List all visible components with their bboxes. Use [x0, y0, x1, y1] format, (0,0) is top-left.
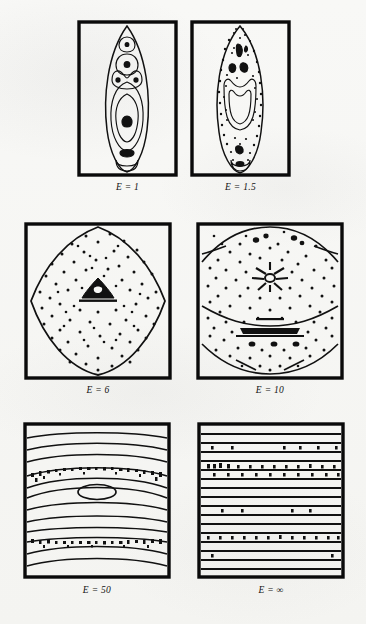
- panel-label-e-1-5: E = 1.5: [190, 182, 291, 192]
- panel-e-1-5: [190, 20, 291, 177]
- contour-figure-grid: E = 1: [0, 0, 366, 624]
- panel-label-e-6: E = 6: [24, 385, 172, 395]
- panel-e-6: [24, 222, 172, 380]
- stipple-layer: [39, 233, 160, 372]
- contour-set: [106, 26, 149, 172]
- panel-frame: [199, 424, 343, 577]
- panel-label-e-50: E = 50: [23, 585, 171, 595]
- panel-e-10: [196, 222, 344, 380]
- contour-set: [217, 26, 263, 173]
- stipple-layer: [207, 231, 336, 372]
- contour-set: [201, 434, 341, 569]
- stipple-layer: [31, 467, 162, 548]
- panel-e-1: [77, 20, 178, 177]
- panel-label-e-infinity: E = ∞: [197, 585, 345, 595]
- panel-label-e-1: E = 1: [77, 182, 178, 192]
- contour-set: [31, 227, 165, 375]
- panel-e-infinity: [197, 422, 345, 579]
- panel-label-e-10: E = 10: [196, 385, 344, 395]
- contour-set: [27, 433, 167, 566]
- stipple-layer: [207, 446, 340, 558]
- panel-e-50: [23, 422, 171, 579]
